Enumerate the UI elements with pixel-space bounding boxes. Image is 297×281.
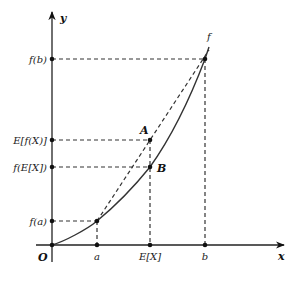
point-ex-xaxis (148, 243, 153, 248)
curve-label-f: f (206, 31, 213, 42)
x-tick-b: b (202, 251, 208, 262)
y-axis-label: y (59, 12, 68, 25)
jensen-diagram: y x O f f(b) E[f(X)] f(E[X]) f(a) a E[X]… (0, 0, 297, 281)
point-A (148, 138, 153, 143)
convex-curve-f (52, 47, 209, 245)
point-B-label: B (156, 162, 166, 175)
y-tick-fa: f(a) (29, 216, 48, 227)
chord-secant-line (97, 50, 209, 221)
origin-label: O (38, 251, 48, 264)
y-tick-efx: E[f(X)] (12, 135, 47, 146)
x-axis-label: x (277, 250, 285, 263)
point-fb-yaxis (50, 57, 55, 62)
point-B (148, 165, 153, 170)
y-tick-fb: f(b) (28, 54, 47, 65)
point-b-xaxis (203, 243, 208, 248)
y-tick-fex: f(E[X]) (12, 162, 47, 173)
point-efx-yaxis (50, 138, 55, 143)
point-a-xaxis (95, 243, 100, 248)
x-tick-a: a (94, 251, 100, 262)
point-A-label: A (139, 124, 149, 137)
point-fa-yaxis (50, 219, 55, 224)
origin-point (50, 243, 55, 248)
point-fb-curve (203, 57, 208, 62)
point-fex-yaxis (50, 165, 55, 170)
point-fa-curve (95, 219, 100, 224)
x-tick-ex: E[X] (138, 251, 161, 262)
